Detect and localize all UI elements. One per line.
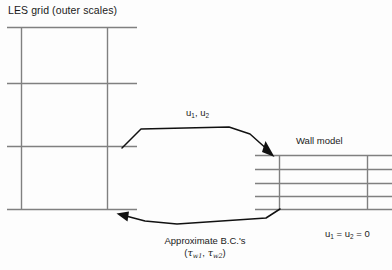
noslip-value: 0 xyxy=(364,228,369,239)
wall-stress-arrow-head xyxy=(117,212,130,222)
noslip-u2-subscript: 2 xyxy=(350,233,354,240)
wall-stress-arrow-shaft xyxy=(126,209,280,224)
wall-model-grid xyxy=(255,155,392,210)
tau-w2-subscript: w2 xyxy=(213,252,223,260)
tau-w1: τw1 xyxy=(187,247,202,258)
no-slip-condition-label: u1 = u2 = 0 xyxy=(325,229,370,240)
les-grid xyxy=(7,27,137,210)
wall-model-label: Wall model xyxy=(296,136,343,147)
noslip-u1-subscript: 1 xyxy=(330,233,334,240)
velocity-u2-subscript: 2 xyxy=(205,112,209,119)
les-grid-label: LES grid (outer scales) xyxy=(8,4,117,16)
tau-w1-subscript: w1 xyxy=(193,252,203,260)
velocity-u1: u1 xyxy=(186,107,195,118)
noslip-equals-2: = xyxy=(354,228,365,239)
velocity-u1-subscript: 1 xyxy=(191,112,195,119)
velocity-u2: u2 xyxy=(200,107,209,118)
velocity-inputs-label: u1, u2 xyxy=(186,108,209,119)
paren-close: ) xyxy=(223,247,226,258)
wall-stress-arrow xyxy=(117,209,281,224)
approximate-bc-label: Approximate B.C.'s (τw1, τw2) xyxy=(145,236,265,259)
noslip-equals-1: = xyxy=(334,228,345,239)
tau-w2: τw2 xyxy=(208,247,223,258)
velocity-arrow-shaft xyxy=(122,127,269,151)
noslip-u1: u1 xyxy=(325,228,334,239)
diagram-canvas: LES grid (outer scales) Wall model u1, u… xyxy=(0,0,392,270)
approximate-bc-symbols: (τw1, τw2) xyxy=(145,248,265,259)
velocity-arrow-head xyxy=(262,141,275,157)
velocity-arrow xyxy=(122,127,275,157)
noslip-u2: u2 xyxy=(345,228,354,239)
approximate-bc-text: Approximate B.C.'s xyxy=(164,235,245,246)
